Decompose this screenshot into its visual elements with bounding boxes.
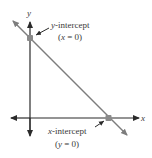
y-axis-label: y [26, 8, 31, 18]
y-intercept-point [27, 35, 33, 41]
x-axis-label: x [140, 113, 145, 123]
x-intercept-label: x-intercept [47, 126, 87, 136]
intercepts-diagram: y x y-intercept (x = 0) x-intercept (y =… [0, 0, 152, 158]
x-intercept-point [106, 115, 112, 121]
y-intercept-condition: (x = 0) [58, 32, 82, 42]
y-intercept-pointer-icon [36, 28, 49, 35]
y-intercept-label: y-intercept [50, 20, 90, 30]
x-intercept-pointer-icon [95, 121, 104, 127]
x-intercept-condition: (y = 0) [55, 139, 79, 149]
